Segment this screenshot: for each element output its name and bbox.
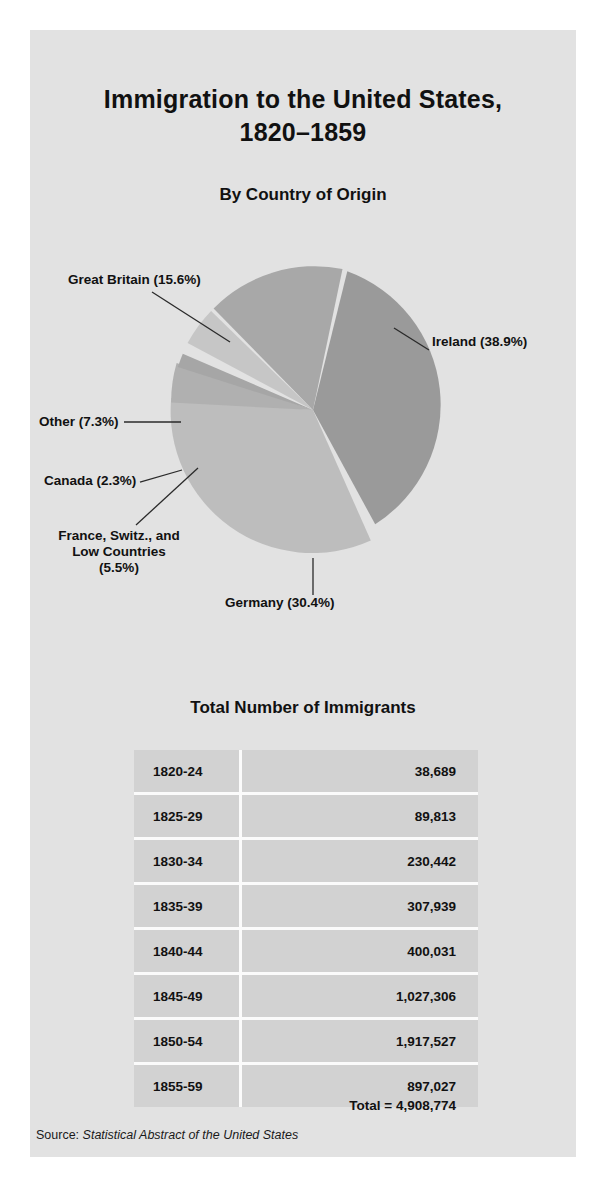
table-cell-value: 400,031 xyxy=(242,930,478,972)
table-row: 1820-2438,689 xyxy=(134,750,478,795)
table-total: Total = 4,908,774 xyxy=(134,1098,478,1113)
pie-label-other: Other (7.3%) xyxy=(39,414,119,430)
leader-line-france xyxy=(136,468,198,525)
pie-slices xyxy=(171,266,441,553)
table-cell-period: 1840-44 xyxy=(134,930,242,972)
leader-line-canada xyxy=(140,470,182,482)
table-cell-period: 1845-49 xyxy=(134,975,242,1017)
table-cell-value: 1,917,527 xyxy=(242,1020,478,1062)
chart-subtitle: By Country of Origin xyxy=(30,185,576,205)
table-row: 1850-541,917,527 xyxy=(134,1020,478,1065)
immigrants-table: 1820-2438,6891825-2989,8131830-34230,442… xyxy=(134,750,478,1107)
table-cell-period: 1850-54 xyxy=(134,1020,242,1062)
page-title-line-1: Immigration to the United States, xyxy=(104,85,502,113)
pie-label-great-britain: Great Britain (15.6%) xyxy=(68,272,201,288)
table-cell-value: 38,689 xyxy=(242,750,478,792)
pie-label-canada: Canada (2.3%) xyxy=(44,473,136,489)
leader-line-great-britain xyxy=(152,292,230,342)
page-title-line-2: 1820–1859 xyxy=(30,116,576,149)
table-cell-value: 89,813 xyxy=(242,795,478,837)
table-row: 1845-491,027,306 xyxy=(134,975,478,1020)
source-note: Source: Statistical Abstract of the Unit… xyxy=(36,1128,298,1142)
table-row: 1835-39307,939 xyxy=(134,885,478,930)
pie-label-france-line-1: France, Switz., and xyxy=(58,528,180,543)
table-row: 1825-2989,813 xyxy=(134,795,478,840)
pie-label-ireland: Ireland (38.9%) xyxy=(432,334,527,350)
figure-card: Immigration to the United States, 1820–1… xyxy=(30,30,576,1157)
table-cell-value: 1,027,306 xyxy=(242,975,478,1017)
table-cell-period: 1825-29 xyxy=(134,795,242,837)
table-row: 1840-44400,031 xyxy=(134,930,478,975)
table-cell-period: 1820-24 xyxy=(134,750,242,792)
table-title: Total Number of Immigrants xyxy=(30,698,576,718)
table-cell-value: 307,939 xyxy=(242,885,478,927)
pie-label-france-line-3: (5.5%) xyxy=(99,560,139,575)
table-cell-period: 1830-34 xyxy=(134,840,242,882)
table-row: 1830-34230,442 xyxy=(134,840,478,885)
page-title: Immigration to the United States, 1820–1… xyxy=(30,83,576,149)
source-label: Source: xyxy=(36,1128,79,1142)
table-cell-value: 230,442 xyxy=(242,840,478,882)
figure-page: Immigration to the United States, 1820–1… xyxy=(0,0,606,1187)
pie-chart: Great Britain (15.6%) Ireland (38.9%) Ot… xyxy=(30,220,576,640)
pie-label-france-line-2: Low Countries xyxy=(72,544,166,559)
pie-label-germany: Germany (30.4%) xyxy=(225,595,335,611)
table-cell-period: 1835-39 xyxy=(134,885,242,927)
pie-label-france: France, Switz., and Low Countries (5.5%) xyxy=(30,528,208,576)
source-title: Statistical Abstract of the United State… xyxy=(83,1128,299,1142)
